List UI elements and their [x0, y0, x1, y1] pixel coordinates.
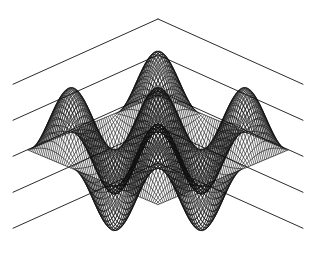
plot-canvas: [0, 0, 316, 258]
backdrop-grid-line: [158, 19, 303, 84]
surface-plot-figure: [0, 0, 316, 258]
backdrop-grid-line: [13, 19, 158, 84]
